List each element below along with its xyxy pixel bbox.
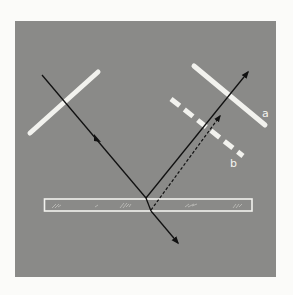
label-b: b <box>230 157 237 170</box>
diagram-canvas: a b <box>0 0 293 295</box>
panel-background <box>15 21 276 277</box>
label-a: a <box>262 107 269 120</box>
optics-diagram: a b <box>0 0 293 295</box>
